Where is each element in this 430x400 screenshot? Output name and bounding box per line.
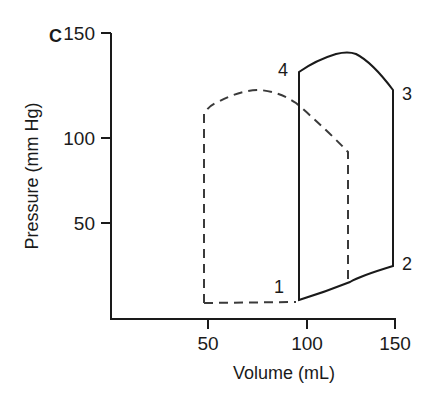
y-tick-label-50: 50 bbox=[74, 213, 95, 234]
x-axis-title: Volume (mL) bbox=[233, 363, 335, 383]
pressure-volume-figure: C 150 100 50 50 100 150 Volume (mL) Pres… bbox=[0, 0, 430, 400]
point-label-2: 2 bbox=[402, 254, 412, 274]
y-ticks: 150 100 50 bbox=[63, 23, 111, 234]
point-label-3: 3 bbox=[402, 84, 412, 104]
y-tick-label-100: 100 bbox=[63, 128, 95, 149]
x-tick-label-100: 100 bbox=[291, 333, 323, 354]
panel-label: C bbox=[49, 26, 62, 46]
x-ticks: 50 100 150 bbox=[197, 319, 410, 354]
y-tick-label-150: 150 bbox=[63, 23, 95, 44]
point-label-1: 1 bbox=[274, 277, 284, 297]
dashed-pv-loop-bottom bbox=[204, 302, 296, 303]
point-label-4: 4 bbox=[278, 60, 288, 80]
pressure-volume-chart: C 150 100 50 50 100 150 Volume (mL) Pres… bbox=[0, 0, 430, 400]
dashed-pv-loop bbox=[204, 90, 348, 303]
y-axis-title: Pressure (mm Hg) bbox=[22, 102, 42, 249]
solid-pv-loop bbox=[299, 53, 393, 301]
x-tick-label-50: 50 bbox=[197, 333, 218, 354]
x-tick-label-150: 150 bbox=[379, 333, 411, 354]
